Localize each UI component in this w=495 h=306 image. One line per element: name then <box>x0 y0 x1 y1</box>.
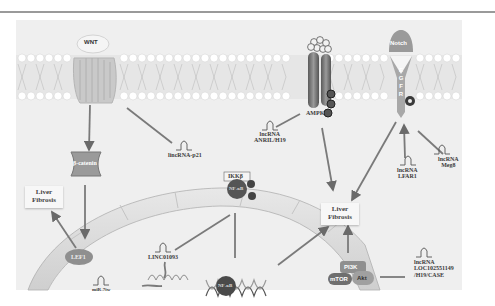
lncrna-anril-line2: ANRIL/H19 <box>254 137 286 143</box>
lef1-label: LEF1 <box>71 254 86 260</box>
wnt-label: WNT <box>84 39 98 45</box>
mtor-label: mTOR <box>330 276 348 282</box>
nfkb-nucleus-label: NF-κB <box>218 283 232 288</box>
lincrna-p21-label: lincRNA-p21 <box>168 152 202 158</box>
lncrna-loc-line3: /H19/CASE <box>414 272 454 278</box>
liver-fibrosis-box-left: Liver Fibrosis <box>25 186 63 208</box>
pi3k-label: PI3K <box>344 264 357 270</box>
akt-label: Akt <box>357 275 367 281</box>
lncrna-meg8-line2: Meg8 <box>438 162 459 168</box>
linc01093-label: LINC01093 <box>148 254 178 260</box>
liver-fibrosis-center-line2: Fibrosis <box>328 214 352 222</box>
mir-label: miR-7iw <box>92 287 110 292</box>
ampk-complex <box>308 37 335 117</box>
nfkb-dna-complex <box>206 276 266 296</box>
lncrna-meg8-label: lncRNA Meg8 <box>438 156 459 169</box>
liver-fibrosis-box-center: Liver Fibrosis <box>321 203 359 225</box>
liver-fibrosis-left-line2: Fibrosis <box>32 197 56 205</box>
lncrna-anril-label: lncRNA ANRIL/H19 <box>254 131 286 144</box>
lncrna-loc-line2: LOC102551149 <box>414 265 454 271</box>
ampk-label: AMPK <box>306 110 324 116</box>
lncrna-lfar1-label: lncRNA LFAR1 <box>397 167 418 180</box>
nfkb-cytoplasm-label: NF-κB <box>229 186 243 191</box>
ikkb-label: IKKβ <box>228 173 243 179</box>
linc-target-rna <box>148 275 188 280</box>
notch-label: Notch <box>390 40 407 46</box>
egfr-label: E G F R <box>398 66 404 98</box>
lncrna-loc-label: lncRNA LOC102551149 /H19/CASE <box>414 259 454 278</box>
lncrna-lfar1-line2: LFAR1 <box>397 173 418 179</box>
beta-catenin-label: β-catenin <box>73 160 97 166</box>
